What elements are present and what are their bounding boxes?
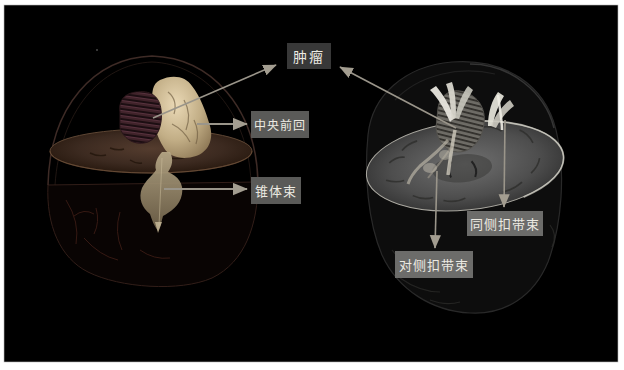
speck: [96, 49, 98, 51]
arrow-ipsilateral-cingulum: [504, 120, 505, 207]
label-pyramidal-tract: 锥体束: [251, 177, 301, 204]
label-contralateral-cingulum: 对侧扣带束: [395, 251, 473, 278]
label-tumor: 肿瘤: [287, 43, 331, 69]
label-precentral-gyrus: 中央前回: [251, 111, 309, 138]
label-ipsilateral-cingulum: 同侧扣带束: [467, 211, 543, 236]
figure-stage: 肿瘤 中央前回 锥体束 同侧扣带束 对侧扣带束: [0, 0, 624, 370]
